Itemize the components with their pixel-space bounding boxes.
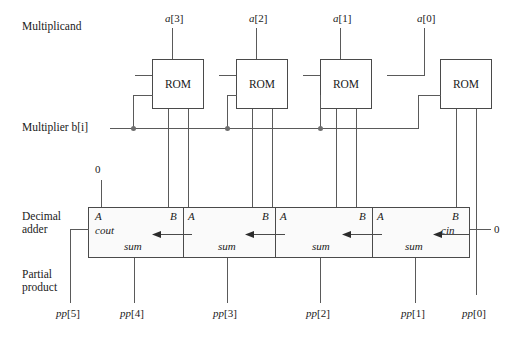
wire-multiplier-bus bbox=[110, 128, 419, 129]
signal-label-a2: a[2] bbox=[249, 12, 267, 24]
junction-dot-rom1 bbox=[318, 126, 323, 131]
wire-rom0-out-pp0 bbox=[476, 109, 477, 295]
row-label-decimal-adder-2: adder bbox=[22, 223, 48, 236]
adder-cout-label: cout bbox=[95, 224, 114, 236]
rom-block-2[interactable]: ROM bbox=[236, 59, 288, 109]
rom-block-3-label: ROM bbox=[165, 78, 191, 90]
adder-cell-2-b-label: B bbox=[359, 210, 366, 222]
wire-rom2-out-a bbox=[272, 109, 273, 208]
wire-bi-into-rom3 bbox=[133, 95, 153, 96]
adder-cell-2-sum-label: sum bbox=[312, 240, 330, 252]
adder-cell-3-a-label: A bbox=[377, 210, 384, 222]
adder-cell-1-b-label: B bbox=[262, 210, 269, 222]
diagram-canvas: Multiplicand Multiplier b[i] Decimal add… bbox=[0, 0, 514, 338]
rom-block-3[interactable]: ROM bbox=[152, 59, 204, 109]
wire-sum0-pp4 bbox=[134, 258, 135, 303]
wire-a0-drop bbox=[424, 28, 425, 75]
row-label-partial-product: Partial bbox=[22, 268, 52, 281]
adder-cell-3-sum-label: sum bbox=[405, 240, 423, 252]
partial-product-label-pp0: pp[0] bbox=[462, 307, 486, 319]
wire-cin-constant bbox=[470, 229, 491, 230]
wire-rom0-out-b bbox=[456, 109, 457, 208]
wire-bi-riser-rom0 bbox=[418, 95, 419, 129]
partial-product-label-pp5: pp[5] bbox=[56, 307, 80, 319]
row-label-multiplicand: Multiplicand bbox=[22, 20, 81, 33]
partial-product-label-pp1: pp[1] bbox=[401, 307, 425, 319]
wire-rom1-out-a bbox=[356, 109, 357, 208]
partial-product-label-pp4: pp[4] bbox=[120, 307, 144, 319]
wire-rom3-out-a bbox=[188, 109, 189, 208]
row-label-partial-product-2: product bbox=[22, 281, 57, 294]
rom-block-1[interactable]: ROM bbox=[320, 59, 372, 109]
rom-block-0[interactable]: ROM bbox=[440, 59, 492, 109]
junction-dot-rom2 bbox=[225, 126, 230, 131]
wire-sum1-pp3 bbox=[227, 258, 228, 303]
signal-label-a0: a[0] bbox=[417, 12, 435, 24]
rom-block-2-label: ROM bbox=[249, 78, 275, 90]
wire-cout-down-pp5 bbox=[70, 229, 71, 303]
partial-product-label-pp3: pp[3] bbox=[213, 307, 237, 319]
adder-cell-3-b-label: B bbox=[452, 210, 459, 222]
signal-label-a1: a[1] bbox=[333, 12, 351, 24]
rom-block-0-label: ROM bbox=[453, 78, 479, 90]
adder-cell-0-sum-label: sum bbox=[124, 240, 142, 252]
carry-arrow-2-icon bbox=[245, 225, 285, 243]
wire-bi-riser-rom3 bbox=[133, 95, 134, 129]
carry-arrow-cin-icon bbox=[433, 225, 470, 243]
wire-sum2-pp2 bbox=[320, 258, 321, 303]
row-label-decimal-adder: Decimal bbox=[22, 210, 61, 223]
wire-bi-riser-rom1 bbox=[320, 95, 321, 129]
carry-arrow-1-icon bbox=[152, 225, 192, 243]
rom-block-1-label: ROM bbox=[333, 78, 359, 90]
wire-rom3-out-b bbox=[168, 109, 169, 208]
wire-a0-into-rom bbox=[387, 75, 425, 76]
carry-arrow-3-icon bbox=[342, 225, 382, 243]
adder-cell-1-a-label: A bbox=[188, 210, 195, 222]
wire-bi-into-rom1 bbox=[320, 95, 321, 96]
wire-cout-out bbox=[70, 229, 89, 230]
junction-dot-rom3 bbox=[131, 126, 136, 131]
wire-bi-into-rom2 bbox=[227, 95, 237, 96]
adder-cell-0-a-label: A bbox=[95, 210, 102, 222]
wire-rom1-out-b bbox=[336, 109, 337, 208]
wire-sum3-pp1 bbox=[415, 258, 416, 303]
signal-label-a3: a[3] bbox=[165, 12, 183, 24]
constant-zero-a-label: 0 bbox=[95, 163, 101, 175]
constant-zero-cin-label: 0 bbox=[494, 223, 500, 235]
wire-bi-into-rom0 bbox=[418, 95, 441, 96]
row-label-multiplier: Multiplier b[i] bbox=[22, 121, 88, 134]
wire-constant-zero-a bbox=[101, 180, 102, 208]
wire-bi-riser-rom2 bbox=[227, 95, 228, 129]
partial-product-label-pp2: pp[2] bbox=[306, 307, 330, 319]
adder-cell-0-b-label: B bbox=[170, 210, 177, 222]
adder-cell-2-a-label: A bbox=[280, 210, 287, 222]
wire-rom2-out-b bbox=[252, 109, 253, 208]
adder-cell-1-sum-label: sum bbox=[218, 240, 236, 252]
